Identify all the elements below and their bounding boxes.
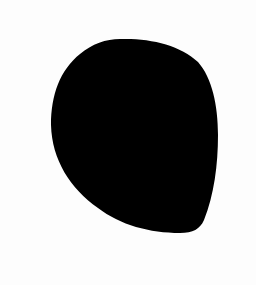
image-canvas bbox=[0, 0, 256, 285]
blob-shape-graphic bbox=[0, 0, 256, 285]
black-blob-shape bbox=[51, 39, 218, 233]
